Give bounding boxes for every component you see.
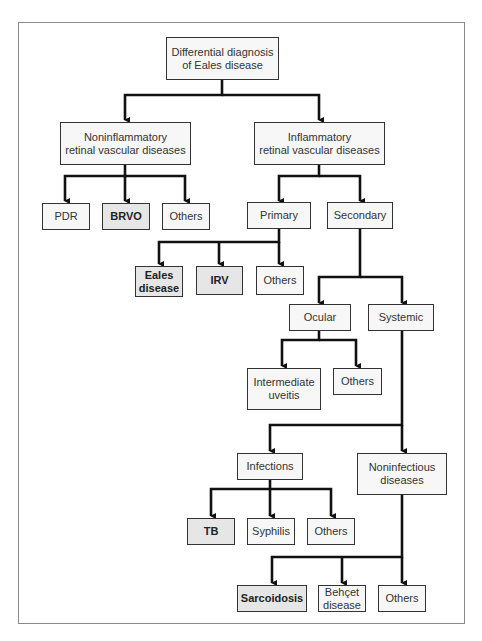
node-sarcoidosis: Sarcoidosis: [237, 585, 307, 612]
node-noninfectious-diseases: Noninfectious diseases: [357, 453, 447, 495]
node-others-primary: Others: [256, 266, 304, 295]
node-others-noninflammatory: Others: [162, 203, 210, 230]
node-others-noninfectious: Others: [378, 585, 426, 612]
node-intermediate-uveitis: Intermediate uveitis: [247, 368, 321, 410]
node-eales-disease: Eales disease: [135, 266, 183, 297]
node-infections: Infections: [237, 453, 303, 480]
node-brvo: BRVO: [102, 203, 150, 230]
node-root: Differential diagnosis of Eales disease: [166, 37, 279, 80]
node-others-infections: Others: [307, 518, 355, 545]
node-irv: IRV: [196, 266, 243, 295]
node-systemic: Systemic: [368, 304, 434, 331]
node-inflammatory: Inflammatory retinal vascular diseases: [254, 122, 385, 165]
node-pdr: PDR: [42, 203, 90, 230]
node-secondary: Secondary: [327, 202, 393, 229]
node-others-ocular: Others: [333, 368, 382, 395]
node-behcet-disease: Behçet disease: [318, 585, 366, 612]
node-syphilis: Syphilis: [247, 518, 295, 545]
node-primary: Primary: [247, 202, 311, 229]
node-noninflammatory: Noninflammatory retinal vascular disease…: [60, 122, 191, 165]
node-ocular: Ocular: [289, 304, 351, 331]
node-tb: TB: [187, 518, 235, 545]
